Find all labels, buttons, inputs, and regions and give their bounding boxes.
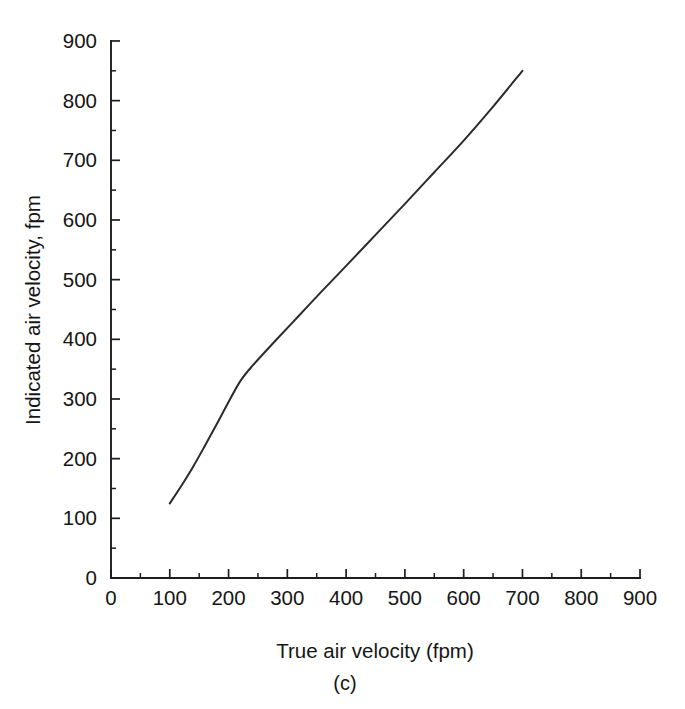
- y-tick-label: 400: [63, 327, 97, 350]
- y-axis-ticks: [111, 41, 120, 578]
- x-tick-label: 400: [329, 586, 363, 609]
- data-series-line: [170, 71, 523, 504]
- y-tick-label: 200: [63, 447, 97, 470]
- y-axis-tick-labels: 0100200300400500600700800900: [63, 29, 97, 589]
- y-tick-label: 800: [63, 89, 97, 112]
- y-tick-label: 300: [63, 387, 97, 410]
- x-axis-title: True air velocity (fpm): [276, 639, 473, 662]
- x-tick-label: 0: [105, 586, 116, 609]
- chart-figure: 0100200300400500600700800900 01002003004…: [0, 0, 685, 709]
- x-tick-label: 900: [623, 586, 657, 609]
- y-tick-label: 600: [63, 208, 97, 231]
- y-axis-title: Indicated air velocity, fpm: [21, 195, 44, 425]
- x-tick-label: 300: [270, 586, 304, 609]
- y-tick-label: 700: [63, 148, 97, 171]
- y-tick-label: 900: [63, 29, 97, 52]
- x-tick-label: 500: [388, 586, 422, 609]
- y-tick-label: 100: [63, 506, 97, 529]
- x-axis-tick-labels: 0100200300400500600700800900: [105, 586, 657, 609]
- x-tick-label: 700: [505, 586, 539, 609]
- y-tick-label: 0: [86, 566, 97, 589]
- axes-group: [111, 41, 640, 578]
- figure-caption: (c): [333, 672, 356, 694]
- x-axis-ticks: [111, 569, 640, 578]
- y-tick-label: 500: [63, 268, 97, 291]
- x-tick-label: 100: [153, 586, 187, 609]
- x-tick-label: 200: [211, 586, 245, 609]
- x-tick-label: 800: [564, 586, 598, 609]
- chart-plot-area: 0100200300400500600700800900 01002003004…: [0, 0, 685, 709]
- x-tick-label: 600: [447, 586, 481, 609]
